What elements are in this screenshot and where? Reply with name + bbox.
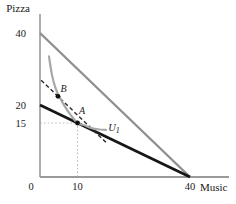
x-tick-label-40: 40	[185, 181, 196, 192]
y-tick-label-20: 20	[16, 100, 27, 111]
point-label-A: A	[78, 105, 86, 116]
curve-label-u1: U1	[108, 122, 120, 135]
point-B	[56, 94, 61, 99]
x-tick-label-0: 0	[28, 181, 33, 192]
new-budget-line	[40, 105, 190, 177]
original-budget-line	[40, 33, 190, 177]
indifference-curve-figure: 40201501040PizzaMusicABU1	[0, 0, 236, 204]
x-tick-label-10: 10	[72, 181, 83, 192]
y-tick-label-15: 15	[16, 118, 27, 129]
y-axis-label: Pizza	[6, 2, 30, 14]
point-A	[75, 121, 80, 126]
figure-canvas: 40201501040PizzaMusicABU1	[0, 0, 236, 204]
x-axis-label: Music	[200, 181, 228, 193]
point-label-B: B	[61, 83, 67, 94]
y-tick-label-40: 40	[16, 28, 27, 39]
